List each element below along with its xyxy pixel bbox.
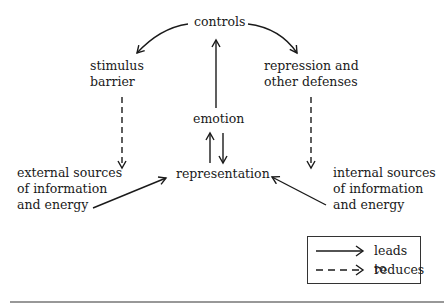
node-external-line2: of information (17, 181, 122, 197)
diagram: controls stimulus barrier repression and… (0, 0, 444, 307)
legend-row-reduces: reduces (308, 261, 420, 279)
node-internal-line2: of information (333, 181, 436, 197)
node-repression-line1: repression and (264, 58, 359, 74)
arrow-controls-to-repression (248, 24, 297, 53)
node-external-sources: external sources of information and ener… (17, 165, 122, 213)
arrow-internal-to-representation (272, 177, 326, 205)
node-stimulus-barrier: stimulus barrier (90, 58, 144, 90)
node-stimulus-barrier-line1: stimulus (90, 58, 144, 74)
node-repression: repression and other defenses (264, 58, 359, 90)
legend: leads to reduces (307, 236, 421, 284)
node-internal-line1: internal sources (333, 165, 436, 181)
node-internal-sources: internal sources of information and ener… (333, 165, 436, 213)
node-representation: representation (176, 166, 270, 182)
node-stimulus-barrier-line2: barrier (90, 74, 144, 90)
legend-row-leads-to: leads to (308, 242, 420, 260)
arrow-controls-to-stimulus-barrier (137, 24, 188, 53)
node-internal-line3: and energy (333, 197, 436, 213)
node-controls: controls (194, 14, 246, 30)
node-external-line1: external sources (17, 165, 122, 181)
legend-reduces-label: reduces (374, 261, 424, 279)
node-external-line3: and energy (17, 197, 122, 213)
node-emotion: emotion (193, 111, 244, 127)
node-repression-line2: other defenses (264, 74, 359, 90)
